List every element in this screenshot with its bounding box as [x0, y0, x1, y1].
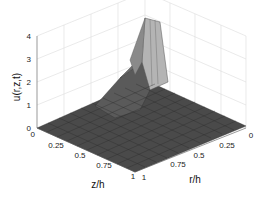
z-tick-1: 1 — [27, 101, 32, 110]
y-tick-1-end: 1 — [142, 173, 147, 182]
z-tick-2: 2 — [27, 78, 32, 87]
y-tick-025: 0.25 — [219, 141, 235, 150]
x-axis-label: z/h — [91, 179, 104, 190]
z-tick-4: 4 — [27, 32, 32, 41]
z-axis-ticks: 0 1 2 3 4 — [27, 32, 32, 133]
x-tick-0: 0 — [31, 130, 36, 139]
z-axis-label: u(r,z,t) — [11, 73, 22, 101]
x-tick-1: 0.25 — [48, 141, 64, 150]
y-tick-0: 0 — [249, 131, 254, 140]
x-tick-2: 0.5 — [74, 151, 86, 160]
x-tick-3: 0.75 — [96, 161, 112, 170]
surface-plot: 0 1 2 3 4 0 0.25 0.5 0.75 1 1 0.75 0.5 0… — [0, 0, 269, 199]
z-tick-3: 3 — [27, 55, 32, 64]
y-tick-05: 0.5 — [193, 151, 205, 160]
y-axis-label: r/h — [189, 174, 201, 185]
x-tick-4: 1 — [131, 172, 136, 181]
y-tick-075: 0.75 — [170, 160, 186, 169]
